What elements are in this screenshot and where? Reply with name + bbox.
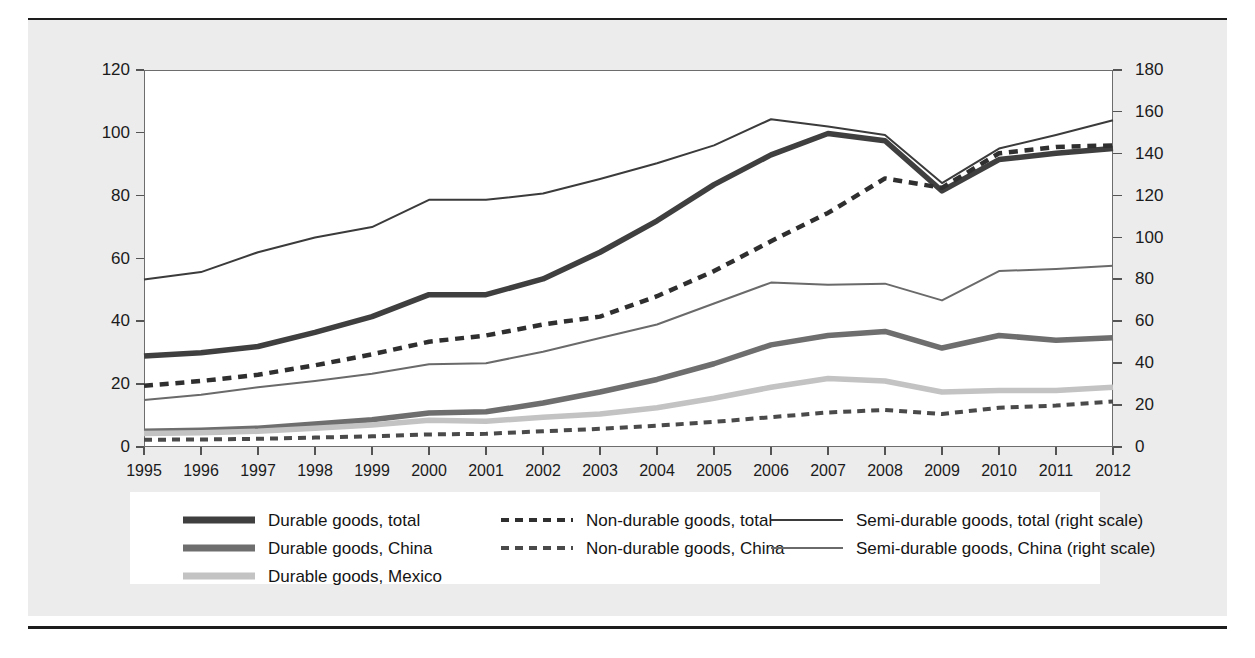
x-axis-tick-mark — [314, 447, 316, 455]
legend-label: Durable goods, total — [268, 512, 420, 529]
series-line — [144, 119, 1113, 279]
series-lines — [144, 70, 1113, 447]
x-axis-tick-mark — [143, 447, 145, 455]
x-axis-tick-label: 1997 — [228, 463, 288, 479]
x-axis-tick-label: 2002 — [513, 463, 573, 479]
legend-item[interactable]: Durable goods, China — [182, 536, 432, 560]
legend-label: Non-durable goods, total — [586, 512, 772, 529]
legend-item[interactable]: Semi-durable goods, total (right scale) — [770, 508, 1143, 532]
x-axis-tick-label: 2000 — [399, 463, 459, 479]
left-axis-tick-label: 100 — [72, 124, 130, 141]
left-axis-tick-mark — [136, 383, 144, 385]
x-axis-tick-mark — [428, 447, 430, 455]
x-axis-tick-label: 2007 — [798, 463, 858, 479]
x-axis-tick-label: 2005 — [684, 463, 744, 479]
right-axis-tick-mark — [1113, 320, 1122, 322]
x-axis-tick-label: 2011 — [1026, 463, 1086, 479]
left-axis-tick-mark — [136, 132, 144, 134]
x-axis-tick-mark — [257, 447, 259, 455]
plot-area — [144, 70, 1113, 447]
right-axis-tick-mark — [1113, 362, 1122, 364]
left-axis-tick-mark — [136, 69, 144, 71]
right-axis-tick-mark — [1113, 69, 1122, 71]
x-axis-tick-mark — [1055, 447, 1057, 455]
right-axis-tick-label: 140 — [1135, 145, 1195, 162]
x-axis-tick-label: 2003 — [570, 463, 630, 479]
right-axis-tick-label: 160 — [1135, 103, 1195, 120]
legend-item[interactable]: Durable goods, total — [182, 508, 420, 532]
legend-line-swatch — [500, 541, 574, 555]
right-axis-tick-mark — [1113, 111, 1122, 113]
legend-line-swatch — [770, 541, 844, 555]
legend-line-swatch — [182, 569, 256, 583]
legend-item[interactable]: Non-durable goods, total — [500, 508, 772, 532]
left-axis-tick-mark — [136, 258, 144, 260]
series-line — [144, 401, 1113, 439]
x-axis-tick-mark — [941, 447, 943, 455]
right-axis-tick-label: 180 — [1135, 61, 1195, 78]
right-axis-tick-label: 0 — [1135, 438, 1195, 455]
legend-label: Semi-durable goods, total (right scale) — [856, 512, 1143, 529]
x-axis-tick-mark — [599, 447, 601, 455]
right-axis-tick-label: 100 — [1135, 229, 1195, 246]
legend-line-swatch — [770, 513, 844, 527]
right-axis-tick-mark — [1113, 404, 1122, 406]
legend-label: Semi-durable goods, China (right scale) — [856, 540, 1156, 557]
right-axis-tick-label: 20 — [1135, 396, 1195, 413]
x-axis-tick-label: 2004 — [627, 463, 687, 479]
x-axis-tick-label: 1998 — [285, 463, 345, 479]
right-axis-tick-mark — [1113, 278, 1122, 280]
x-axis-tick-mark — [656, 447, 658, 455]
x-axis-tick-mark — [371, 447, 373, 455]
x-axis-tick-label: 2010 — [969, 463, 1029, 479]
left-axis-tick-label: 40 — [72, 312, 130, 329]
series-line — [144, 145, 1113, 385]
right-axis-tick-mark — [1113, 153, 1122, 155]
x-axis-tick-label: 2008 — [855, 463, 915, 479]
legend-line-swatch — [182, 541, 256, 555]
right-axis-tick-label: 120 — [1135, 187, 1195, 204]
left-axis-tick-label: 120 — [72, 61, 130, 78]
legend-items: Durable goods, totalDurable goods, China… — [130, 492, 1100, 584]
x-axis-tick-mark — [200, 447, 202, 455]
x-axis-tick-label: 1999 — [342, 463, 402, 479]
x-axis-tick-label: 2006 — [741, 463, 801, 479]
legend-label: Durable goods, Mexico — [268, 568, 442, 585]
left-axis-tick-label: 20 — [72, 375, 130, 392]
right-axis-tick-mark — [1113, 237, 1122, 239]
x-axis-tick-mark — [770, 447, 772, 455]
left-axis-tick-label: 0 — [72, 438, 130, 455]
left-axis-tick-label: 60 — [72, 250, 130, 267]
x-axis-tick-label: 1996 — [171, 463, 231, 479]
legend-line-swatch — [182, 513, 256, 527]
x-axis-tick-label: 2009 — [912, 463, 972, 479]
x-axis-tick-mark — [827, 447, 829, 455]
bottom-rule — [28, 626, 1227, 629]
left-axis-tick-label: 80 — [72, 187, 130, 204]
legend: Durable goods, totalDurable goods, China… — [130, 492, 1100, 584]
right-axis-tick-mark — [1113, 195, 1122, 197]
legend-item[interactable]: Semi-durable goods, China (right scale) — [770, 536, 1156, 560]
x-axis-tick-mark — [542, 447, 544, 455]
right-axis-tick-label: 40 — [1135, 354, 1195, 371]
right-axis-tick-mark — [1113, 446, 1122, 448]
x-axis-tick-mark — [998, 447, 1000, 455]
figure-root: 120100806040200 180160140120100806040200… — [0, 0, 1255, 658]
legend-label: Non-durable goods, China — [586, 540, 784, 557]
legend-item[interactable]: Non-durable goods, China — [500, 536, 784, 560]
x-axis-tick-mark — [485, 447, 487, 455]
x-axis-tick-mark — [713, 447, 715, 455]
x-axis-tick-label: 2001 — [456, 463, 516, 479]
x-axis-tick-mark — [884, 447, 886, 455]
left-axis-tick-mark — [136, 320, 144, 322]
series-line — [144, 266, 1113, 400]
x-axis-tick-label: 1995 — [114, 463, 174, 479]
legend-item[interactable]: Durable goods, Mexico — [182, 564, 442, 588]
legend-line-swatch — [500, 513, 574, 527]
x-axis-tick-label: 2012 — [1083, 463, 1143, 479]
left-axis-tick-mark — [136, 195, 144, 197]
right-axis-tick-label: 80 — [1135, 270, 1195, 287]
legend-label: Durable goods, China — [268, 540, 432, 557]
right-axis-tick-label: 60 — [1135, 312, 1195, 329]
x-axis-tick-mark — [1112, 447, 1114, 455]
